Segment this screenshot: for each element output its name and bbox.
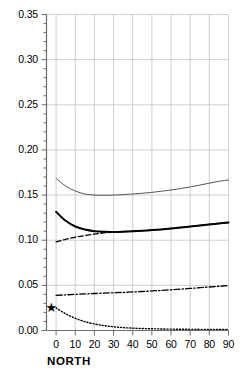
y-tick-label: 0.00 (4, 324, 38, 336)
data-series-group (56, 178, 228, 329)
series-dash-dot-lower (56, 286, 228, 296)
chart-figure: ★ 0.000.050.100.150.200.250.300.35 01020… (0, 0, 243, 377)
axis-lines (47, 15, 229, 331)
series-thin-solid-upper (56, 178, 228, 195)
y-tick-label: 0.35 (4, 8, 38, 20)
annotation-layer: ★ (45, 300, 57, 315)
y-tick-label: 0.20 (4, 143, 38, 155)
grid-lines (47, 15, 229, 331)
star-marker: ★ (45, 300, 57, 315)
x-axis-title: NORTH (47, 355, 91, 367)
series-thick-solid-middle (56, 212, 228, 232)
y-tick-label: 0.15 (4, 188, 38, 200)
x-tick-label: 90 (218, 338, 240, 350)
y-tick-label: 0.10 (4, 233, 38, 245)
y-tick-label: 0.30 (4, 53, 38, 65)
y-tick-label: 0.05 (4, 278, 38, 290)
series-dotted-decay (56, 308, 228, 329)
y-tick-label: 0.25 (4, 98, 38, 110)
series-dashed-middle (56, 223, 228, 242)
